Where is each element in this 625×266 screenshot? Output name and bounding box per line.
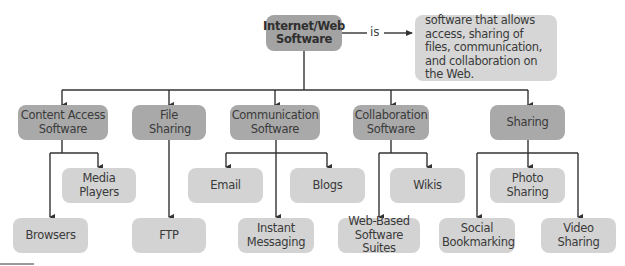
category-collaboration: Collaboration Software: [353, 105, 429, 140]
leaf-label: Photo Sharing: [503, 172, 553, 199]
definition-text: software that allows access, sharing of …: [425, 14, 547, 82]
leaf-photo-sharing: Photo Sharing: [490, 168, 565, 203]
category-label: Collaboration Software: [353, 109, 429, 136]
root-node: Internet/Web Software: [266, 15, 342, 51]
category-label: File Sharing: [149, 109, 189, 136]
leaf-wikis: Wikis: [390, 168, 465, 203]
leaf-label: Instant Messaging: [241, 222, 311, 249]
leaf-label: Social Bookmarking: [442, 222, 512, 249]
category-content-access: Content Access Software: [18, 105, 108, 140]
is-connector-label: is: [370, 25, 380, 39]
leaf-video-sharing: Video Sharing: [541, 218, 616, 253]
definition-box: software that allows access, sharing of …: [415, 15, 557, 81]
category-label: Content Access Software: [18, 109, 108, 136]
page-edge-bar: [0, 263, 34, 265]
category-sharing: Sharing: [490, 105, 565, 140]
leaf-label: Wikis: [413, 179, 442, 193]
leaf-media-players: Media Players: [62, 168, 136, 203]
leaf-label: Blogs: [313, 179, 343, 193]
category-label: Communication Software: [230, 109, 320, 136]
leaf-label: FTP: [159, 229, 178, 243]
root-label: Internet/Web Software: [263, 20, 345, 47]
leaf-instant-messaging: Instant Messaging: [238, 218, 314, 253]
category-label: Sharing: [506, 116, 548, 130]
leaf-ftp: FTP: [132, 218, 206, 253]
leaf-social-bookmarking: Social Bookmarking: [439, 218, 515, 253]
leaf-label: Video Sharing: [554, 222, 604, 249]
leaf-label: Web-Based Software Suites: [339, 215, 419, 256]
leaf-blogs: Blogs: [290, 168, 365, 203]
leaf-label: Media Players: [74, 172, 124, 199]
category-communication: Communication Software: [230, 105, 320, 140]
leaf-browsers: Browsers: [13, 218, 88, 253]
leaf-web-based-suites: Web-Based Software Suites: [338, 218, 420, 253]
leaf-label: Email: [210, 179, 240, 193]
leaf-email: Email: [188, 168, 263, 203]
leaf-label: Browsers: [25, 229, 75, 243]
category-file-sharing: File Sharing: [132, 105, 206, 140]
